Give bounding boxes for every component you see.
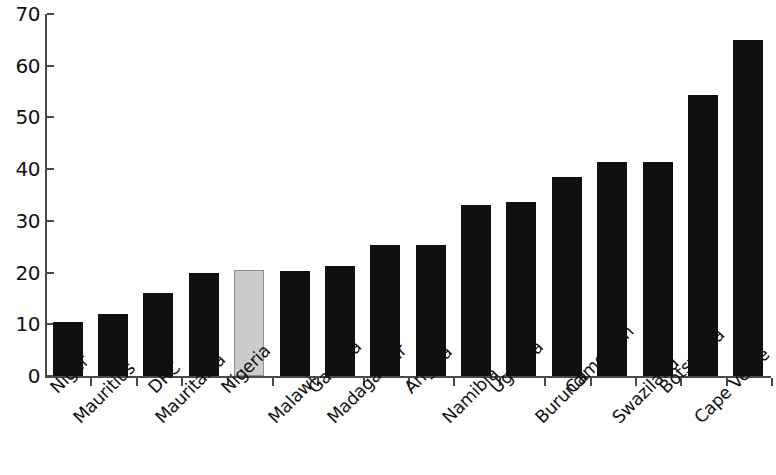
- y-tick-mark: [47, 168, 54, 170]
- bar-burundi: [552, 177, 582, 376]
- x-tick-mark: [544, 378, 546, 386]
- bar-namibia: [461, 205, 491, 376]
- y-tick-label: 50: [0, 107, 40, 127]
- x-tick-mark: [90, 378, 92, 386]
- x-tick-mark: [771, 378, 773, 386]
- y-tick-label: 0: [0, 366, 40, 386]
- y-tick-label: 70: [0, 4, 40, 24]
- y-tick-label: 20: [0, 263, 40, 283]
- y-tick-label: 60: [0, 56, 40, 76]
- x-tick-mark: [453, 378, 455, 386]
- y-tick-mark: [47, 272, 54, 274]
- y-tick-label: 10: [0, 314, 40, 334]
- x-tick-mark: [272, 378, 274, 386]
- bar-cape-verde: [733, 40, 763, 376]
- y-tick-label: 40: [0, 159, 40, 179]
- y-tick-mark: [47, 116, 54, 118]
- bar-malawi: [280, 271, 310, 376]
- y-tick-mark: [47, 65, 54, 67]
- y-tick-mark: [47, 220, 54, 222]
- bar-swaziland: [643, 162, 673, 376]
- y-tick-label: 30: [0, 211, 40, 231]
- bar-chart: 010203040506070 NigerMauritiusDRCMaurita…: [0, 0, 776, 475]
- x-tick-mark: [136, 378, 138, 386]
- y-tick-mark: [47, 13, 54, 15]
